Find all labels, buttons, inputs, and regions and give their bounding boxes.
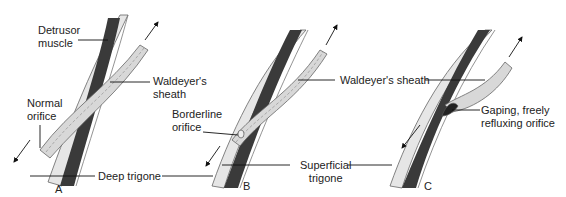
flow-arrow-out-a [145, 22, 158, 40]
panel-letter-b: B [243, 180, 250, 192]
flow-arrow-out-b [326, 25, 337, 45]
flow-arrow-in-a [14, 140, 30, 162]
label-deep-trigone: Deep trigone [98, 170, 161, 183]
label-borderline-orifice: Borderline orifice [172, 108, 222, 134]
label-normal-orifice: Normal orifice [27, 97, 62, 123]
panel-letter-c: C [424, 180, 432, 192]
label-superficial-trigone: Superficial trigone [300, 159, 351, 185]
label-waldeyer-sheath-a: Waldeyer's sheath [153, 75, 207, 101]
label-gaping-orifice: Gaping, freely refluxing orifice [481, 104, 555, 130]
borderline-orifice [238, 130, 244, 138]
ureterovesical-junction-diagram [0, 0, 566, 197]
flow-arrow-out-c [509, 37, 522, 57]
flow-arrow-in-b [206, 146, 220, 166]
label-detrusor-muscle: Detrusor muscle [38, 24, 80, 50]
panel-letter-a: A [55, 183, 62, 195]
label-waldeyer-sheath-b: Waldeyer's sheath [340, 74, 430, 87]
